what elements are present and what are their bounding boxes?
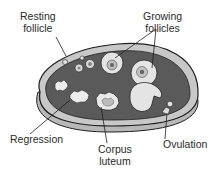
label-corpus-line1: Corpus — [98, 143, 132, 155]
label-ovulation-line1: Ovulation — [163, 138, 207, 150]
growing-follicle-1 — [101, 52, 123, 74]
label-resting-line1: Resting — [20, 10, 56, 22]
label-corpus-luteum: Corpus luteum — [98, 143, 132, 167]
label-regression: Regression — [10, 133, 63, 145]
label-ovulation: Ovulation — [163, 138, 207, 150]
label-resting-line2: follicle — [20, 22, 56, 34]
label-growing-line1: Growing — [143, 10, 182, 22]
label-corpus-line2: luteum — [98, 155, 132, 167]
label-resting-follicle: Resting follicle — [20, 10, 56, 34]
label-growing-follicles: Growing follicles — [143, 10, 182, 34]
label-growing-line2: follicles — [143, 22, 182, 34]
label-regression-line1: Regression — [10, 133, 63, 145]
